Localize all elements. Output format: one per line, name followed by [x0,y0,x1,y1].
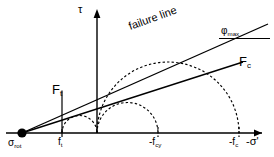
mohr-circles [62,62,239,133]
tick-label-fcy: -fcy [149,137,161,147]
tick-label-fcy-subscript: cy [155,141,161,148]
phi-max-label: φmax [221,26,239,36]
tau-axis-label: τ [78,4,82,15]
envelope-label-Ft-subscript: t [60,89,62,98]
mohr-coulomb-failure-diagram: τ -σ' σrot ft -fcy -fc Ft Fc φmax failur… [0,0,274,157]
tick-label-fc: -fc [229,137,238,147]
failure-envelopes [22,24,268,133]
sigma-axis-label: -σ' [246,136,259,147]
tick-label-ft: ft [58,137,63,147]
tick-label-fc-subscript: c [235,141,238,148]
envelope-label-Ft: Ft [52,83,62,96]
envelope-label-Ft-symbol: F [52,82,60,97]
failure-line-Fc [22,62,243,133]
envelope-label-Fc: Fc [239,55,251,68]
sigma-rot-subscript: rot [14,142,21,149]
failure-line-upper [22,24,268,133]
envelope-label-Fc-symbol: F [239,54,247,69]
sigma-axis [6,130,262,137]
tau-axis-arrowhead [94,9,101,18]
mohr-circle-compressive [97,62,239,133]
envelope-label-Fc-subscript: c [247,61,251,70]
mohr-circle-cyclic [97,103,158,133]
phi-max-subscript: max [227,30,239,37]
sigma-rot-label: σrot [8,138,21,148]
tick-label-ft-subscript: t [61,141,63,148]
